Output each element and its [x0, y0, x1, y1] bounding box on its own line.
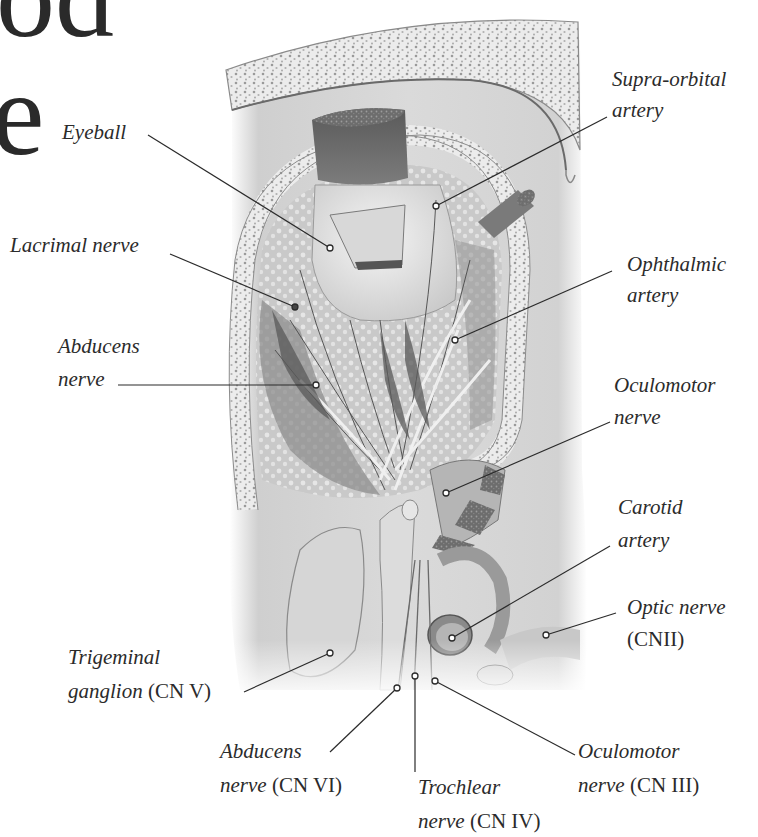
label-supraorbital-artery: Supra-orbital artery: [612, 64, 726, 126]
label-trigeminal-ganglion: Trigeminal ganglion (CN V): [68, 640, 211, 708]
label-oculomotor-nerve-cn3: Oculomotor nerve (CN III): [578, 734, 699, 802]
label-eyeball: Eyeball: [62, 116, 126, 148]
label-ophthalmic-artery: Ophthalmic artery: [627, 249, 726, 311]
label-trochlear-nerve: Trochlear nerve (CN IV): [418, 770, 540, 837]
label-optic-nerve: Optic nerve (CNII): [627, 591, 726, 655]
label-lacrimal-nerve: Lacrimal nerve: [10, 229, 139, 261]
label-carotid-artery: Carotid artery: [618, 491, 683, 557]
label-abducens-nerve-cn6: Abducens nerve (CN VI): [220, 734, 342, 802]
label-oculomotor-nerve: Oculomotor nerve: [614, 369, 716, 433]
label-abducens-nerve: Abducens nerve: [58, 330, 140, 396]
